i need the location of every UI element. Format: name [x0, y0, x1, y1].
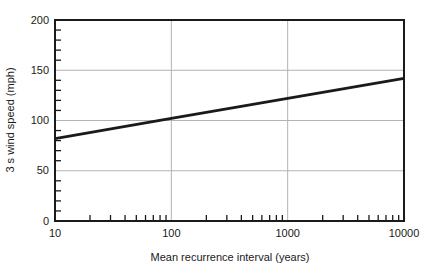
series-lines — [55, 78, 404, 138]
gridlines — [55, 20, 404, 221]
x-tick-label: 10000 — [389, 227, 420, 240]
axis-ticks — [56, 30, 399, 220]
y-tick-label: 100 — [19, 114, 49, 127]
wind-speed-line — [55, 78, 404, 138]
y-tick-label: 150 — [19, 64, 49, 77]
x-tick-label: 100 — [162, 227, 180, 240]
x-tick-label: 1000 — [275, 227, 299, 240]
x-tick-label: 10 — [49, 227, 61, 240]
wind-speed-recurrence-chart: 050100150200 10100100010000 3 s wind spe… — [0, 0, 431, 276]
plot-area — [0, 0, 431, 276]
y-tick-label: 0 — [19, 215, 49, 228]
x-axis-title: Mean recurrence interval (years) — [151, 251, 310, 263]
y-tick-label: 200 — [19, 14, 49, 27]
y-tick-label: 50 — [19, 164, 49, 177]
y-axis-title: 3 s wind speed (mph) — [4, 67, 16, 172]
